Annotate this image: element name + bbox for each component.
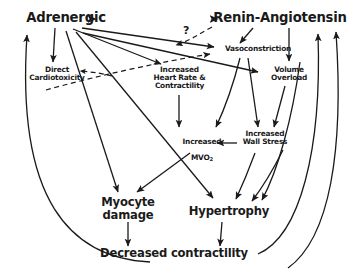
node-decreased-contractility: Decreased contractility bbox=[86, 247, 262, 260]
edge-wall-stress-hypertrophy bbox=[236, 153, 255, 199]
increased-mvo2-line1: Increased bbox=[183, 137, 222, 146]
edge-hypertrophy-decreased-contractility bbox=[220, 222, 222, 246]
edge-volume-overload-wall-stress bbox=[274, 86, 285, 127]
increased-mvo2-line2: MVO bbox=[191, 153, 210, 162]
node-increased-wall-stress: Increased Wall Stress bbox=[234, 130, 296, 146]
node-volume-overload: Volume Overload bbox=[256, 66, 322, 82]
edge-fan-adrenergic-myocyte-damage bbox=[66, 31, 118, 192]
node-renin-angiotensin: Renin-Angiotensin bbox=[212, 11, 348, 25]
mvo2-subscript: 2 bbox=[210, 156, 214, 162]
node-increased-mvo2: Increased MVO2 bbox=[172, 130, 232, 163]
annotation-question-mark: ? bbox=[183, 24, 189, 37]
node-increased-heart-rate-contractility: Increased Heart Rate & Contractility bbox=[141, 66, 218, 90]
node-vasoconstriction: Vasoconstriction bbox=[216, 45, 300, 53]
node-adrenergic: Adrenergic bbox=[8, 11, 124, 25]
node-myocyte-damage: Myocyte damage bbox=[86, 196, 170, 221]
edge-wall-stress-hypertrophy-secondary bbox=[252, 150, 283, 201]
node-hypertrophy: Hypertrophy bbox=[177, 205, 281, 218]
edge-vasoconstriction-increased-mvo2-path bbox=[216, 58, 240, 127]
edge-renin-vasoconstriction bbox=[240, 28, 253, 43]
node-direct-cardiotoxicity: Direct Cardiotoxicity bbox=[18, 66, 96, 82]
edge-adrenergic-direct-cardiotoxicity bbox=[53, 28, 55, 62]
